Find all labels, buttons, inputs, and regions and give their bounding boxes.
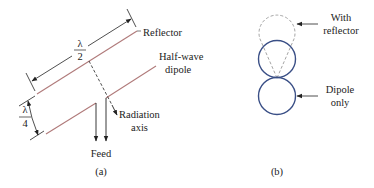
radiation-axis-label-line2: axis: [131, 122, 148, 133]
dipole-left-half: [46, 103, 96, 134]
caption-b: (b): [271, 166, 284, 178]
antenna-diagram: λ 2 λ 4 Reflector Half-wave dipole Radia…: [0, 0, 374, 188]
dipole-right-half: [106, 66, 156, 98]
half-lambda-arrow-right: [88, 19, 131, 46]
with-reflector-label-line2: reflector: [323, 25, 359, 36]
svg-text:λ: λ: [77, 38, 83, 49]
figure-a: λ 2 λ 4 Reflector Half-wave dipole Radia…: [19, 9, 204, 178]
radiation-axis-label-line1: Radiation: [119, 109, 161, 120]
half-lambda-label: λ 2: [74, 38, 86, 62]
feed-label: Feed: [91, 148, 112, 159]
svg-text:4: 4: [22, 118, 28, 129]
dipole-only-label-line1: Dipole: [326, 84, 355, 95]
reflector-label: Reflector: [143, 27, 183, 38]
dipole-only-label-line2: only: [331, 97, 350, 108]
figure-b: With reflector Dipole only (b): [259, 12, 360, 178]
reflector-element: [37, 31, 137, 94]
quarter-lambda-arrow: [28, 101, 32, 118]
half-lambda-tick-left: [26, 73, 35, 91]
half-lambda-arrow-left: [32, 56, 72, 81]
quarter-lambda-arrow-2: [32, 118, 38, 135]
half-wave-label-line1: Half-wave: [159, 51, 204, 62]
with-reflector-lobe: [259, 15, 295, 78]
radiation-axis-arrow: [112, 105, 117, 115]
caption-a: (a): [95, 166, 107, 178]
radiation-axis-line: [89, 61, 112, 105]
with-reflector-label-line1: With: [331, 12, 352, 23]
svg-text:λ: λ: [22, 104, 28, 115]
dipole-pattern-upper-lobe: [259, 41, 296, 78]
half-lambda-tick-right: [127, 9, 136, 27]
svg-text:2: 2: [77, 51, 82, 62]
half-wave-label-line2: dipole: [165, 64, 192, 75]
dipole-pattern-lower-lobe: [259, 78, 296, 115]
